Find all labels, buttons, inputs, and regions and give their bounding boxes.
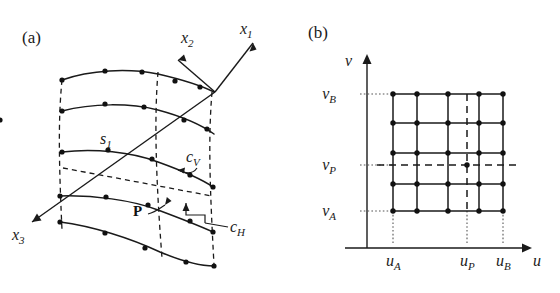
grid-node <box>445 150 450 155</box>
svg-text:cH: cH <box>230 218 246 238</box>
panel-b-label: (b) <box>308 23 328 42</box>
uP-sub: P <box>467 260 475 272</box>
ch-leader <box>205 223 228 227</box>
ch-arrowhead <box>183 203 190 211</box>
surface-isocurves <box>60 71 214 266</box>
uB-base: u <box>496 252 504 269</box>
control-point <box>102 230 107 235</box>
x3-label-base: x <box>11 226 19 243</box>
figure-container: (a) x1 x2 x3 <box>0 0 560 293</box>
grid-node <box>476 208 481 213</box>
cv-label-base: c <box>186 148 193 165</box>
uP-base: u <box>460 252 468 269</box>
grid-node <box>390 150 395 155</box>
uB-sub: B <box>504 260 511 272</box>
point-p-arrowhead <box>163 196 172 205</box>
isocurve-5 <box>60 222 214 266</box>
control-point <box>139 69 144 74</box>
grid-node <box>414 91 419 96</box>
figure-svg: (a) x1 x2 x3 <box>0 0 560 293</box>
svg-text:x1: x1 <box>239 20 253 40</box>
dashed-curve-middle <box>156 72 162 258</box>
grid-node <box>445 208 450 213</box>
v-tick-labels: νB νP νA <box>322 85 336 222</box>
v-tick-label-vP: νP <box>322 156 336 176</box>
grid-node <box>500 208 505 213</box>
u-axis-arrowhead <box>522 244 532 253</box>
s1-label-sub: 1 <box>106 138 112 150</box>
u-tick-label-uP: uP <box>460 252 475 272</box>
control-point <box>59 108 64 113</box>
control-point <box>59 77 64 82</box>
x1-axis-line <box>215 43 253 92</box>
x1-label-base: x <box>239 20 247 37</box>
control-point <box>197 84 202 89</box>
grid-node <box>476 150 481 155</box>
v-tick-label-vA: νA <box>322 202 336 222</box>
grid-node <box>500 120 505 125</box>
control-point <box>0 117 3 122</box>
panel-a-label: (a) <box>22 28 41 47</box>
panel-b: (b) ν u <box>308 23 541 272</box>
control-point <box>57 193 62 198</box>
control-point <box>211 263 216 268</box>
x2-label-base: x <box>180 29 188 46</box>
control-point <box>142 245 147 250</box>
grid-node <box>414 208 419 213</box>
parameter-point-p <box>464 162 469 167</box>
uA-sub: A <box>393 260 401 272</box>
control-point <box>57 219 62 224</box>
grid-node <box>414 120 419 125</box>
grid-node <box>476 120 481 125</box>
x3-label-sub: 3 <box>18 234 25 246</box>
u-tick-label-uA: uA <box>386 252 401 272</box>
grid-node <box>476 91 481 96</box>
control-point <box>181 117 186 122</box>
svg-text:cV: cV <box>186 148 201 168</box>
grid-node <box>390 91 395 96</box>
cv-arrowhead <box>178 168 185 174</box>
dashed-isoparam-curves <box>59 72 214 265</box>
cv-annotation: cV <box>178 148 201 174</box>
control-point <box>102 101 107 106</box>
grid-node <box>500 150 505 155</box>
x1-axis-label: x1 <box>239 20 253 40</box>
svg-text:x2: x2 <box>180 29 194 49</box>
isocurve-1 <box>62 71 214 92</box>
ch-label-base: c <box>230 218 237 235</box>
vB-sub: B <box>329 93 336 105</box>
grid-node <box>414 181 419 186</box>
dashed-curve-left <box>59 80 62 230</box>
x2-label-sub: 2 <box>188 37 194 49</box>
grid-node <box>414 150 419 155</box>
x2-axis-line <box>178 60 215 92</box>
control-point <box>187 218 192 223</box>
grid-node <box>500 181 505 186</box>
dashed-curve-right <box>210 92 214 265</box>
grid-node <box>500 91 505 96</box>
x3-arrowhead <box>32 214 42 223</box>
grid-node <box>390 208 395 213</box>
u-tick-labels: uA uP uB <box>386 252 511 272</box>
grid-node <box>390 181 395 186</box>
control-point <box>210 184 215 189</box>
control-point <box>172 78 177 83</box>
u-axis-group: u <box>345 244 541 270</box>
vA-sub: A <box>328 210 336 222</box>
control-point <box>145 202 150 207</box>
grid-node <box>445 181 450 186</box>
control-point <box>141 104 146 109</box>
control-point <box>204 126 209 131</box>
ch-label-sub: H <box>236 226 246 238</box>
grid-node <box>476 181 481 186</box>
u-axis-label: u <box>533 252 541 269</box>
control-point <box>59 149 64 154</box>
control-point <box>102 68 107 73</box>
control-point <box>183 259 188 264</box>
surface-s1-annotation: s1 <box>100 130 112 150</box>
guide-lines <box>360 94 503 244</box>
svg-text:x3: x3 <box>11 226 25 246</box>
grid-node <box>390 120 395 125</box>
vP-sub: P <box>328 164 336 176</box>
cv-label-sub: V <box>193 156 201 168</box>
